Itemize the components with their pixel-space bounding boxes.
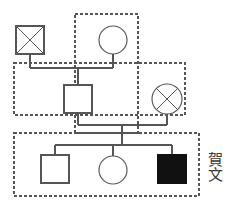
individual-i-2[interactable] bbox=[99, 26, 127, 54]
symbol-circle-female[interactable] bbox=[99, 156, 127, 184]
individual-iii-2[interactable] bbox=[99, 156, 127, 184]
individual-ii-1[interactable] bbox=[64, 85, 92, 113]
connector-lines bbox=[30, 54, 172, 156]
annotation-label: 賀文 bbox=[206, 152, 223, 182]
pedigree-chart: 賀文 bbox=[0, 0, 238, 216]
symbol-circle-female[interactable] bbox=[99, 26, 127, 54]
symbol-square-male[interactable] bbox=[64, 85, 92, 113]
symbol-square-male[interactable] bbox=[41, 155, 69, 183]
individual-iii-3[interactable] bbox=[158, 155, 186, 183]
individual-iii-1[interactable] bbox=[41, 155, 69, 183]
individual-i-1[interactable] bbox=[16, 26, 44, 54]
symbol-square-male-affected[interactable] bbox=[158, 155, 186, 183]
pedigree-canvas bbox=[0, 0, 238, 216]
individual-ii-2[interactable] bbox=[152, 84, 182, 114]
